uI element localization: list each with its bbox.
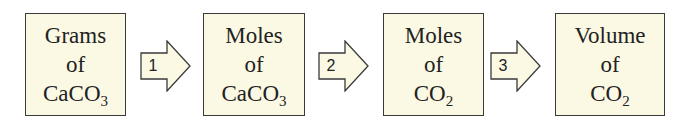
box-line1: Grams	[45, 21, 106, 50]
step-number: 1	[140, 53, 166, 79]
box-line1: Moles	[405, 21, 463, 50]
box-line3: CO2	[414, 79, 453, 108]
box-line2: of	[66, 50, 85, 79]
arrow-step-3: 3	[490, 40, 545, 92]
box-line2: of	[244, 50, 263, 79]
box-line2: of	[600, 50, 619, 79]
box-line2: of	[424, 50, 443, 79]
box-line1: Moles	[225, 21, 283, 50]
box-line3: CaCO3	[43, 79, 108, 108]
box-moles-caco3: Moles of CaCO3	[203, 13, 305, 116]
box-line3: CaCO3	[222, 79, 287, 108]
box-line3: CO2	[590, 79, 629, 108]
box-moles-co2: Moles of CO2	[383, 13, 484, 116]
arrow-step-2: 2	[318, 40, 373, 92]
step-number: 2	[318, 53, 344, 79]
box-grams-caco3: Grams of CaCO3	[25, 13, 126, 116]
arrow-step-1: 1	[140, 40, 195, 92]
box-line1: Volume	[574, 21, 645, 50]
box-volume-co2: Volume of CO2	[555, 13, 665, 116]
step-number: 3	[490, 53, 516, 79]
